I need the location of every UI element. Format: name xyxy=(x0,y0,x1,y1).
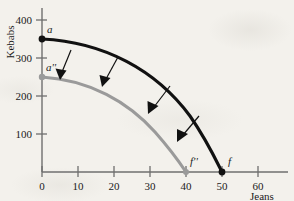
x-tick-label-0: 0 xyxy=(39,180,45,192)
x-tick-label-30: 30 xyxy=(145,180,157,192)
point-marker-a-prime xyxy=(39,74,45,80)
x-axis-title: Jeans xyxy=(250,190,274,201)
point-label-a: a xyxy=(47,23,53,35)
x-tick-label-50: 50 xyxy=(217,180,229,192)
ppf-curve-shifted xyxy=(42,77,186,172)
x-tick-label-20: 20 xyxy=(109,180,121,192)
point-labels: a a'' f'' f xyxy=(46,23,233,167)
ppf-curve-original xyxy=(42,39,222,172)
point-marker-f-prime xyxy=(183,169,189,175)
y-tick-label-200: 200 xyxy=(16,90,33,102)
shift-arrows xyxy=(56,50,200,142)
y-tick-label-300: 300 xyxy=(16,52,33,64)
x-tick-label-10: 10 xyxy=(73,180,85,192)
ppf-chart: 400 300 200 100 0 10 20 30 40 50 60 Keba… xyxy=(0,0,294,201)
shift-arrow-3 xyxy=(148,86,171,114)
y-tick-label-100: 100 xyxy=(16,128,33,140)
point-label-a-prime: a'' xyxy=(46,61,57,73)
x-tick-label-40: 40 xyxy=(181,180,193,192)
chart-canvas: 400 300 200 100 0 10 20 30 40 50 60 Keba… xyxy=(0,0,294,201)
shift-arrow-4 xyxy=(177,116,199,142)
point-label-f: f xyxy=(228,155,233,167)
y-axis-title: Kebabs xyxy=(4,26,16,59)
point-marker-f xyxy=(219,169,226,176)
y-tick-label-400: 400 xyxy=(16,14,33,26)
shift-arrow-2 xyxy=(100,57,119,87)
x-axis-ticks: 0 10 20 30 40 50 60 xyxy=(39,166,264,192)
point-label-f-prime: f'' xyxy=(190,155,198,167)
shift-arrow-1 xyxy=(56,50,72,80)
point-marker-a xyxy=(39,36,46,43)
